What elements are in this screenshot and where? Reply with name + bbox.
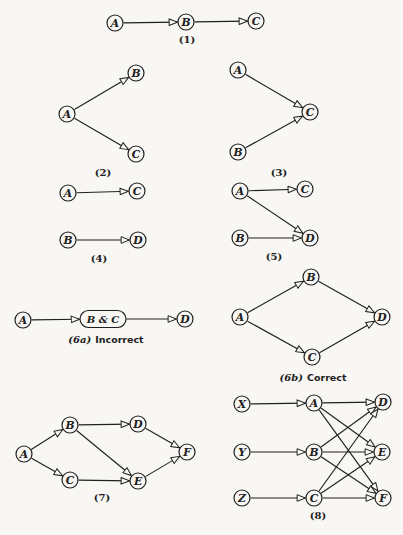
node-label-B: B xyxy=(232,146,242,159)
caption-1: (1) xyxy=(179,34,195,45)
edge-E-F xyxy=(145,456,179,476)
node-label-B: B xyxy=(234,232,244,245)
edge-A-B xyxy=(74,77,128,109)
edge-A-BC xyxy=(32,319,80,320)
caption-4: (4) xyxy=(91,253,107,264)
node-label-C: C xyxy=(132,148,141,161)
edge-D-F xyxy=(145,428,179,447)
node-label-E: E xyxy=(133,475,143,488)
edge-A-C xyxy=(248,321,305,353)
node-label-E: E xyxy=(377,446,387,459)
caption-7: (7) xyxy=(94,492,110,503)
node-label-A: A xyxy=(63,187,72,200)
edge-B-C xyxy=(195,21,248,22)
node-label-BC: B & C xyxy=(86,314,119,325)
node-label-D: D xyxy=(304,232,315,245)
edge-A-C xyxy=(245,74,302,107)
node-label-D: D xyxy=(377,396,388,409)
node-label-Y: Y xyxy=(238,446,247,459)
figure-canvas: ABC(1)ABC(2)ABC(3)ACBD(4)ACBD(5)AB & CD(… xyxy=(0,0,403,535)
caption-2: (2) xyxy=(95,167,111,178)
diagram-7: ABCDEF(7) xyxy=(16,416,195,503)
node-label-C: C xyxy=(252,15,261,28)
node-label-A: A xyxy=(19,448,28,461)
node-label-D: D xyxy=(132,234,143,247)
node-label-B: B xyxy=(62,234,72,247)
edge-A-C xyxy=(74,118,128,149)
diagram-2: ABC(2) xyxy=(59,65,144,178)
caption-3: (3) xyxy=(271,167,287,178)
node-label-D: D xyxy=(376,311,387,324)
edge-A-B xyxy=(247,281,303,313)
node-label-B: B xyxy=(305,271,315,284)
node-label-D: D xyxy=(179,313,190,326)
node-label-D: D xyxy=(132,418,143,431)
diagram-6b: ABCD(6b)Correct xyxy=(232,269,390,383)
node-label-C: C xyxy=(66,474,75,487)
edge-A-D xyxy=(323,402,375,403)
edge-C-D xyxy=(319,321,374,352)
caption-6b: (6b)Correct xyxy=(280,372,347,383)
node-label-B: B xyxy=(308,446,318,459)
node-label-F: F xyxy=(182,446,192,459)
node-label-Z: Z xyxy=(237,492,247,505)
edge-B-D xyxy=(79,424,130,425)
diagram-8: XYZABCDEF(8) xyxy=(234,394,391,521)
diagram-3: ABC(3) xyxy=(230,62,318,178)
caption-6a: (6a)Incorrect xyxy=(68,334,144,345)
edge-B-C xyxy=(246,116,303,148)
node-label-C: C xyxy=(310,492,319,505)
node-label-C: C xyxy=(133,185,142,198)
node-label-B: B xyxy=(130,67,140,80)
node-label-C: C xyxy=(306,106,315,119)
node-label-F: F xyxy=(378,492,388,505)
caption-8: (8) xyxy=(310,510,326,521)
edge-B-D xyxy=(321,407,376,447)
edge-A-C xyxy=(31,458,62,476)
edge-A-B xyxy=(124,22,178,23)
edge-A-C xyxy=(249,189,297,190)
diagram-4: ACBD(4) xyxy=(60,183,146,264)
node-label-A: A xyxy=(110,17,119,30)
node-label-A: A xyxy=(18,314,27,327)
node-label-C: C xyxy=(301,183,310,196)
node-label-A: A xyxy=(233,64,242,77)
diagram-1: ABC(1) xyxy=(107,13,264,45)
node-label-A: A xyxy=(62,108,71,121)
scanned-figure-page: ABC(1)ABC(2)ABC(3)ACBD(4)ACBD(5)AB & CD(… xyxy=(0,0,403,535)
edge-C-E xyxy=(79,480,130,481)
node-label-X: X xyxy=(237,398,247,411)
node-label-A: A xyxy=(235,185,244,198)
edge-A-C xyxy=(77,191,129,193)
diagram-5: ACBD(5) xyxy=(232,181,318,262)
edge-B-D xyxy=(318,281,374,313)
edge-A-B xyxy=(31,430,62,450)
diagram-6a: AB & CD(6a)Incorrect xyxy=(15,311,193,346)
node-label-B: B xyxy=(64,419,74,432)
edge-A-D xyxy=(247,196,303,233)
node-label-B: B xyxy=(180,16,190,29)
edge-B-E xyxy=(77,430,132,475)
edge-X-A xyxy=(251,403,306,404)
node-label-A: A xyxy=(309,397,318,410)
node-label-A: A xyxy=(235,311,244,324)
caption-5: (5) xyxy=(266,251,282,262)
node-label-C: C xyxy=(308,351,317,364)
